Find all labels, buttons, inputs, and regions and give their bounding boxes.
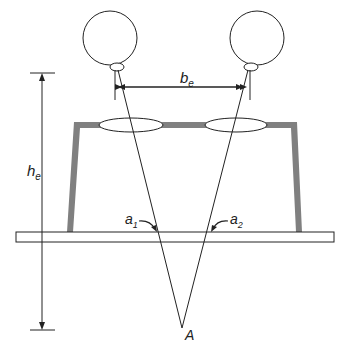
right-eye bbox=[230, 11, 284, 65]
sight-ray-right bbox=[182, 70, 248, 328]
right-pupil bbox=[244, 63, 258, 71]
sight-ray-left bbox=[118, 70, 182, 328]
photo-plane bbox=[16, 232, 334, 242]
point-a-label: A bbox=[184, 327, 194, 343]
right-lens bbox=[205, 118, 267, 132]
height-label: he bbox=[27, 162, 41, 182]
viewing-distance-dimension bbox=[30, 73, 55, 330]
stereo-viewing-diagram: be he a1 a2 A bbox=[0, 0, 347, 344]
baseline-label: be bbox=[180, 69, 194, 89]
left-pupil bbox=[110, 63, 124, 71]
angle2-arrowhead bbox=[211, 225, 217, 232]
left-lens bbox=[99, 118, 163, 132]
left-eye bbox=[83, 11, 137, 65]
angle1-arrowhead bbox=[151, 225, 157, 232]
stereoscope-frame bbox=[67, 122, 302, 232]
angle1-label: a1 bbox=[125, 211, 138, 230]
angle2-label: a2 bbox=[230, 211, 243, 230]
